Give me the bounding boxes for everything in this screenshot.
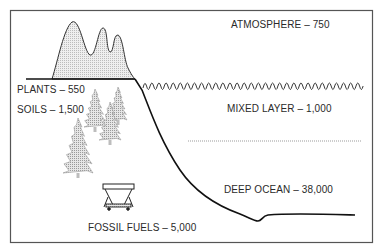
carbon-reservoir-diagram: ATMOSPHERE – 750 PLANTS – 550 SOILS – 1,… <box>0 0 380 250</box>
tree-trunk <box>77 173 80 178</box>
tree-icon <box>84 89 106 127</box>
trees-group <box>63 87 127 178</box>
label-fossil-fuels: FOSSIL FUELS – 5,000 <box>88 222 196 233</box>
label-mixed-layer: MIXED LAYER – 1,000 <box>227 103 332 114</box>
label-deep-ocean: DEEP OCEAN – 38,000 <box>224 184 333 195</box>
mountain-icon <box>52 22 135 79</box>
diagram-canvas <box>0 0 380 250</box>
tree-trunk <box>117 120 120 125</box>
label-soils: SOILS – 1,500 <box>17 104 84 115</box>
label-atmosphere: ATMOSPHERE – 750 <box>231 19 330 30</box>
ocean-floor-line <box>135 79 355 221</box>
tree-trunk <box>94 127 97 132</box>
wave-icon <box>143 83 363 90</box>
tree-trunk <box>109 140 112 145</box>
label-plants: PLANTS – 550 <box>17 84 85 95</box>
coal-cart-icon <box>103 184 134 210</box>
